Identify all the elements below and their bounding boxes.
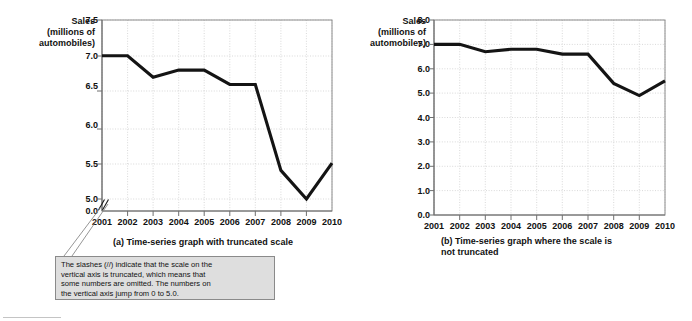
chart-b-plot <box>0 0 692 230</box>
chart-b-caption-line-1: (b) Time-series graph where the scale is <box>441 236 612 247</box>
callout-line-1: The slashes (//) indicate that the scale… <box>61 260 269 270</box>
truncation-annotation-callout: The slashes (//) indicate that the scale… <box>55 256 275 300</box>
chart-b-caption-line-2: not truncated <box>441 247 612 258</box>
callout-line-2: vertical axis is truncated, which means … <box>61 270 269 280</box>
footer-rule <box>3 317 61 318</box>
callout-line-3: some numbers are omitted. The numbers on <box>61 279 269 289</box>
callout-line-4: the vertical axis jump from 0 to 5.0. <box>61 289 269 299</box>
x-tick-label: 2010 <box>650 222 680 231</box>
data-series-line <box>434 44 665 95</box>
figure-container: Sales (millions of automobiles) 7.5 7.0 … <box>0 0 692 321</box>
chart-a-caption: (a) Time-series graph with truncated sca… <box>113 237 293 248</box>
chart-b-caption: (b) Time-series graph where the scale is… <box>441 236 612 258</box>
